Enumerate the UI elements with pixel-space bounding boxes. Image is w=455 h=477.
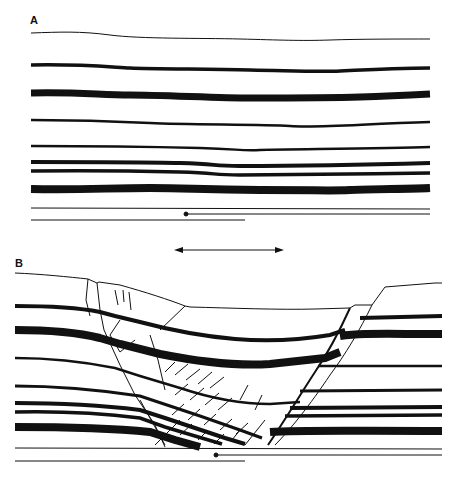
b-layer-5-right	[290, 407, 442, 408]
layer-1	[31, 65, 430, 72]
b-layer-7-right	[270, 431, 442, 432]
panel-b	[15, 273, 442, 461]
layer-2	[31, 93, 430, 98]
layer-7	[31, 188, 430, 190]
b-layer-6-right	[285, 415, 442, 416]
base-line-1	[31, 208, 430, 209]
b-layer-1-right	[360, 316, 442, 318]
fault-left-2	[97, 283, 104, 330]
layer-4	[31, 146, 430, 150]
panel-a	[31, 32, 430, 220]
surface-left	[15, 273, 442, 309]
fault-left-6	[160, 306, 185, 330]
fault-left-7	[115, 290, 131, 310]
surface-line	[31, 32, 430, 40]
pin-dot	[184, 212, 188, 216]
b-base-line-1	[15, 448, 442, 449]
layer-5	[31, 162, 430, 166]
diagram-canvas	[0, 0, 455, 477]
layer-3	[31, 120, 430, 127]
b-pin-dot	[214, 453, 218, 457]
main-fault	[268, 308, 350, 445]
antithetic-fault	[275, 305, 372, 445]
extension-arrow	[174, 247, 284, 253]
layer-6	[31, 171, 430, 175]
b-layer-4-right	[300, 390, 442, 391]
